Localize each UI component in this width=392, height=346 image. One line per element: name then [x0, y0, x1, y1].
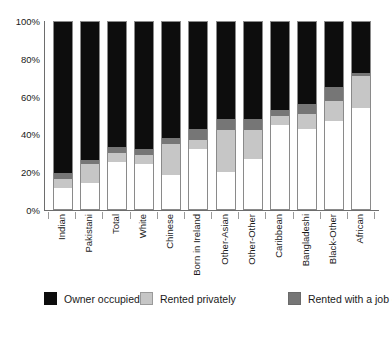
bar-segment — [244, 119, 262, 130]
bar-white[interactable] — [134, 21, 154, 210]
y-axis-tick-label: 100% — [0, 16, 40, 27]
bar-segment — [162, 22, 180, 138]
bar-indian[interactable] — [53, 21, 73, 210]
bars-container — [45, 21, 379, 210]
x-axis-tick-label: Caribbean — [274, 214, 284, 258]
bar-segment — [81, 183, 99, 209]
legend-swatch-owner — [44, 292, 57, 305]
legend-item[interactable]: Rented privately — [140, 292, 288, 305]
x-axis-tick — [265, 212, 266, 219]
bar-segment — [189, 22, 207, 129]
bar-segment — [271, 116, 289, 125]
bar-slot — [348, 21, 375, 210]
x-axis-tick-label: African — [356, 214, 366, 244]
bar-chinese[interactable] — [161, 21, 181, 210]
legend-swatch-private — [140, 292, 153, 305]
plot-area — [44, 21, 379, 211]
legend-item[interactable]: Rented with a job or a business — [288, 292, 392, 305]
bar-segment — [135, 22, 153, 149]
bar-segment — [108, 162, 126, 209]
bar-segment — [244, 159, 262, 209]
x-axis-tick — [374, 212, 375, 219]
legend-item[interactable]: Owner occupied — [44, 292, 140, 305]
bar-slot — [294, 21, 321, 210]
legend-label: Rented privately — [160, 293, 236, 305]
bar-segment — [352, 22, 370, 72]
bar-slot — [131, 21, 158, 210]
bar-segment — [108, 153, 126, 162]
bar-segment — [298, 104, 316, 113]
bar-segment — [325, 121, 343, 209]
legend-swatch-jobbiz — [288, 292, 301, 305]
x-axis-tick — [75, 212, 76, 219]
bar-segment — [298, 114, 316, 129]
bar-slot — [103, 21, 130, 210]
bar-segment — [162, 144, 180, 176]
bar-segment — [325, 101, 343, 122]
y-axis-tick-label: 20% — [0, 167, 40, 178]
x-axis-tick-label: Other-Other — [247, 214, 257, 265]
x-axis-tick — [320, 212, 321, 219]
x-axis-tick — [48, 212, 49, 219]
bar-slot — [266, 21, 293, 210]
bar-slot — [185, 21, 212, 210]
bar-pakistani[interactable] — [80, 21, 100, 210]
bar-segment — [135, 155, 153, 164]
bar-segment — [271, 125, 289, 209]
x-axis-tick — [238, 212, 239, 219]
bar-segment — [217, 130, 235, 171]
bar-segment — [81, 164, 99, 183]
x-axis-tick — [102, 212, 103, 219]
bar-segment — [325, 87, 343, 100]
x-axis-tick — [157, 212, 158, 219]
bar-segment — [217, 119, 235, 130]
legend-label: Rented with a job or a business — [308, 293, 392, 305]
bar-born-in-ireland[interactable] — [188, 21, 208, 210]
bar-african[interactable] — [351, 21, 371, 210]
bar-segment — [244, 130, 262, 158]
y-axis-tick-label: 40% — [0, 129, 40, 140]
bar-segment — [54, 22, 72, 173]
bar-total[interactable] — [107, 21, 127, 210]
bar-segment — [217, 22, 235, 119]
x-axis-tick-label: Pakistani — [84, 214, 94, 253]
y-axis-tick-label: 80% — [0, 53, 40, 64]
bar-segment — [217, 172, 235, 209]
x-axis-tick — [184, 212, 185, 219]
bar-segment — [81, 22, 99, 160]
bar-segment — [271, 22, 289, 110]
bar-segment — [325, 22, 343, 87]
x-axis-tick-label: Indian — [57, 214, 67, 240]
bar-slot — [212, 21, 239, 210]
x-axis-tick-label: Other-Asian — [220, 214, 230, 265]
bar-segment — [352, 76, 370, 108]
bar-other-asian[interactable] — [216, 21, 236, 210]
bar-slot — [158, 21, 185, 210]
chart-legend: Owner occupiedRented privatelyRented wit… — [44, 289, 384, 308]
bar-segment — [54, 179, 72, 188]
bar-segment — [352, 108, 370, 209]
bar-slot — [239, 21, 266, 210]
x-axis-tick-label: Bangladeshi — [301, 214, 311, 266]
bar-bangladeshi[interactable] — [297, 21, 317, 210]
x-axis-tick-label: Black-Other — [329, 214, 339, 264]
bar-segment — [189, 140, 207, 149]
bar-segment — [54, 188, 72, 209]
bar-segment — [298, 22, 316, 104]
x-axis-tick — [211, 212, 212, 219]
bar-segment — [135, 164, 153, 209]
bar-segment — [189, 149, 207, 209]
bar-black-other[interactable] — [324, 21, 344, 210]
x-axis-tick-label: Total — [111, 214, 121, 234]
bar-segment — [298, 129, 316, 209]
bar-caribbean[interactable] — [270, 21, 290, 210]
y-axis-tick-label: 60% — [0, 91, 40, 102]
bar-slot — [49, 21, 76, 210]
x-axis-tick-label: White — [138, 214, 148, 238]
bar-segment — [244, 22, 262, 119]
bar-slot — [321, 21, 348, 210]
bar-segment — [108, 22, 126, 147]
x-axis-tick — [347, 212, 348, 219]
x-axis-tick-label: Born in Ireland — [193, 214, 203, 276]
bar-other-other[interactable] — [243, 21, 263, 210]
